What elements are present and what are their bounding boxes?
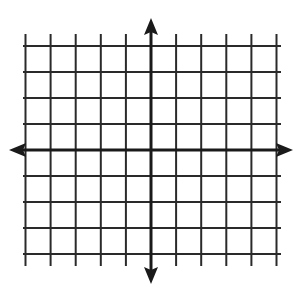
coordinate-plane (0, 0, 303, 296)
coordinate-grid-svg (0, 0, 303, 296)
